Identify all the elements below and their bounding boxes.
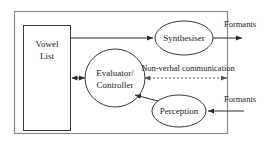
formants-output-label: Formants xyxy=(224,19,256,29)
evaluator-controller-label-line1: Evaluator/ xyxy=(96,68,134,78)
evaluator-controller-label-line2: Controller xyxy=(97,80,134,90)
edge-perception-to-evaluator xyxy=(135,95,158,101)
evaluator-controller-node[interactable] xyxy=(85,49,145,107)
perception-label: Perception xyxy=(160,106,199,116)
synthesiser-label: Synthesiser xyxy=(163,33,205,43)
formants-input-label: Formants xyxy=(224,94,256,104)
vowel-list-label-line2: List xyxy=(40,51,55,61)
non-verbal-communication-label: Non-verbal communication xyxy=(141,63,235,73)
diagram-canvas: Vowel List Synthesiser Evaluator/ Contro… xyxy=(0,0,278,149)
vowel-list-label-line1: Vowel xyxy=(36,39,59,49)
diagram-svg: Vowel List Synthesiser Evaluator/ Contro… xyxy=(0,0,278,149)
